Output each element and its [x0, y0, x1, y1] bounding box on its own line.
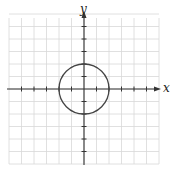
x-axis-label: x — [163, 81, 170, 95]
coordinate-plane — [0, 0, 173, 175]
x-axis-arrow-icon — [154, 87, 161, 92]
y-axis-label: y — [80, 2, 87, 16]
